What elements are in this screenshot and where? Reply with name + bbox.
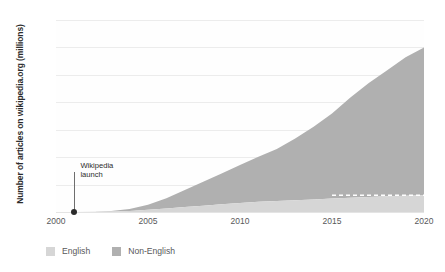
chart-legend: English Non-English <box>46 246 175 256</box>
legend-label-non-english: Non-English <box>128 246 175 256</box>
plot-area: Wikipedia launch 20002005201020152020 <box>56 20 424 212</box>
wikipedia-articles-area-chart: Number of articles on wikipedia.org (mil… <box>0 0 445 272</box>
legend-label-english: English <box>62 246 90 256</box>
legend-swatch-english <box>46 247 55 256</box>
x-tick-label-2010: 2010 <box>231 216 250 226</box>
gridline-0 <box>56 212 424 213</box>
annotation-marker-dot <box>71 209 77 215</box>
x-tick-label-2000: 2000 <box>47 216 66 226</box>
annotation-label: Wikipedia launch <box>80 162 113 179</box>
area-series-non-english <box>56 47 424 212</box>
legend-swatch-non-english <box>112 247 121 256</box>
area-series-svg <box>56 20 424 212</box>
legend-item-non-english[interactable]: Non-English <box>112 246 175 256</box>
x-tick-label-2015: 2015 <box>323 216 342 226</box>
x-tick-label-2020: 2020 <box>415 216 434 226</box>
annotation-leader-line <box>74 172 75 212</box>
legend-item-english[interactable]: English <box>46 246 90 256</box>
x-tick-label-2005: 2005 <box>139 216 158 226</box>
stacked-areas <box>56 20 424 212</box>
y-axis-title: Number of articles on wikipedia.org (mil… <box>15 7 25 222</box>
annotation-label-line-2: launch <box>80 171 113 180</box>
